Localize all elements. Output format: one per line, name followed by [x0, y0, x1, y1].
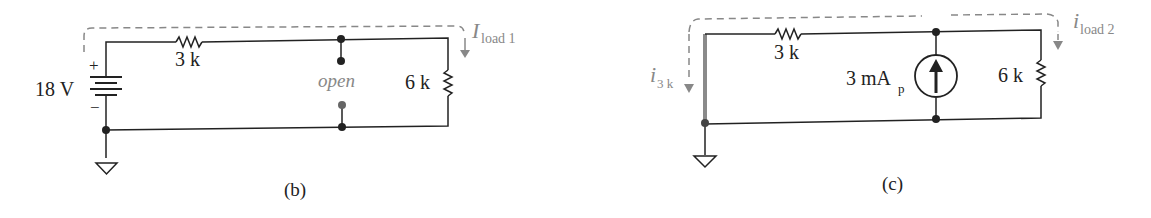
dashed-current-path-c	[689, 16, 922, 32]
current-load2-label-sub: load 2	[1080, 22, 1115, 37]
source-current-label-sub: p	[898, 81, 905, 96]
source-current-label-main: 3 mA	[846, 67, 892, 89]
plus-sign: +	[89, 56, 99, 75]
open-terminal-bottom	[338, 101, 346, 109]
current-load2-label-main: i	[1073, 8, 1079, 33]
arrow-down-icon	[684, 84, 694, 93]
current-3k-label-main: i	[650, 62, 656, 87]
arrow-down-icon	[1053, 41, 1063, 50]
minus-sign: −	[90, 98, 100, 117]
resistor-3k-icon	[775, 29, 801, 39]
current-label-main: I	[471, 18, 481, 43]
resistor-3k-label: 3 k	[175, 48, 200, 70]
node-dot	[338, 123, 346, 131]
circuit-b: + − 18 V 3 k 6 k open I load 1 (b)	[35, 18, 516, 201]
battery-icon	[90, 77, 122, 95]
node-dot	[337, 35, 345, 43]
node-dot	[932, 28, 940, 36]
ground-icon	[694, 156, 716, 167]
open-terminal-top	[337, 57, 345, 65]
resistor-6k-icon	[1037, 60, 1045, 86]
current-3k-label-sub: 3 k	[657, 76, 674, 91]
open-label: open	[318, 70, 355, 91]
resistor-3k-icon	[176, 37, 202, 47]
arrow-down-icon	[460, 50, 470, 58]
current-label-sub: load 1	[481, 31, 516, 46]
resistor-6k-icon	[444, 70, 452, 96]
resistor-6k-label: 6 k	[405, 71, 430, 93]
current-source-icon	[915, 55, 957, 97]
resistor-3k-label: 3 k	[774, 41, 799, 63]
node-dot	[701, 119, 709, 127]
caption-c: (c)	[882, 173, 903, 195]
caption-b: (b)	[284, 179, 306, 201]
wire-top-b	[106, 42, 176, 70]
source-voltage-label: 18 V	[35, 78, 75, 100]
circuit-c: i 3 k 3 k 3 mA p 6 k i load 2 (c)	[650, 8, 1115, 195]
node-dot	[932, 115, 940, 123]
resistor-6k-label: 6 k	[998, 64, 1023, 86]
ground-icon	[96, 163, 117, 174]
node-dot	[102, 126, 110, 134]
